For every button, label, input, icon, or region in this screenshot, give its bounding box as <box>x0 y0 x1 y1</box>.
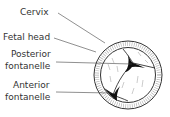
label-anterior: Anterior <box>13 80 49 90</box>
label-anterior-fontanelle: fontanelle <box>5 92 50 102</box>
cervix-leader <box>58 13 105 43</box>
label-posterior-fontanelle: fontanelle <box>5 61 50 71</box>
label-posterior: Posterior <box>11 49 51 59</box>
label-cervix: Cervix <box>20 7 49 17</box>
label-fetal-head: Fetal head <box>3 32 50 42</box>
fetal-head-leader <box>54 38 96 52</box>
